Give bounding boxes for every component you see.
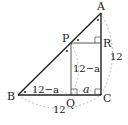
- label-P: P: [62, 32, 70, 45]
- label-A: A: [96, 0, 106, 13]
- length-QC: a: [83, 83, 90, 96]
- length-BC: 12: [53, 104, 66, 115]
- right-angle-R: [95, 37, 101, 43]
- label-C: C: [103, 92, 111, 105]
- label-Q: Q: [66, 97, 75, 110]
- length-AC: 12: [110, 51, 123, 62]
- geometry-diagram: A B C P R Q 12−a 12−a a 12 12: [0, 0, 128, 125]
- right-angle-C: [95, 89, 101, 95]
- angle-dot-A: [97, 19, 99, 21]
- angle-dot-B: [24, 91, 26, 93]
- label-B: B: [7, 90, 15, 103]
- angle-dot-P-lower: [66, 50, 68, 52]
- length-PQ: 12−a: [73, 63, 100, 74]
- label-R: R: [103, 37, 112, 50]
- angle-dot-P-upper: [77, 39, 79, 41]
- length-BQ: 12−a: [32, 84, 59, 95]
